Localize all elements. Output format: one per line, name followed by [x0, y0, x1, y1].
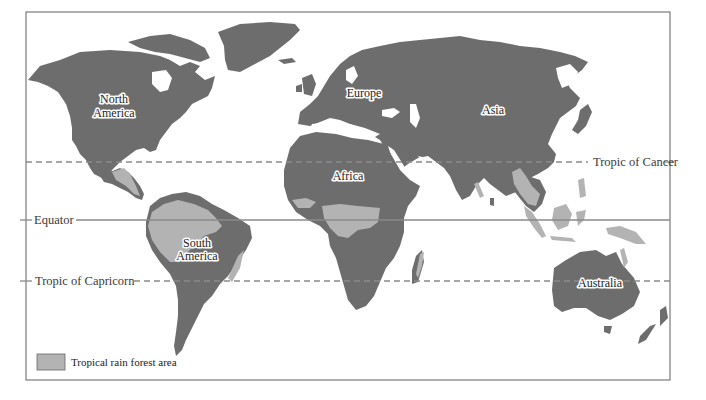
java-landmass	[550, 236, 576, 242]
greenland-landmass	[218, 22, 300, 72]
japan-landmass	[572, 104, 592, 134]
ireland-landmass	[296, 84, 302, 92]
borneo-landmass	[552, 204, 572, 230]
india-west-forest	[474, 182, 484, 198]
south-america-label-line2: America	[176, 249, 218, 263]
legend: Tropical rain forest area	[37, 354, 177, 370]
sulawesi-landmass	[576, 210, 586, 226]
new-guinea-landmass	[606, 226, 646, 244]
landmasses	[28, 22, 668, 356]
legend-swatch	[37, 354, 65, 370]
persian-gulf	[418, 156, 430, 164]
world-map: Tropic of Cancer Equator Tropic of Capri…	[0, 0, 706, 400]
sri-lanka-landmass	[490, 198, 494, 206]
british-isles-landmass	[302, 74, 316, 96]
asia-label: Asia	[482, 103, 505, 117]
philippines-landmass	[578, 178, 586, 198]
africa-label: Africa	[333, 169, 364, 183]
europe-label: Europe	[347, 86, 382, 100]
north-america-label: North	[100, 92, 128, 106]
new-zealand-landmass	[638, 306, 668, 344]
tasmania-landmass	[604, 326, 612, 334]
legend-label: Tropical rain forest area	[71, 356, 177, 368]
north-america-label-line2: America	[93, 106, 135, 120]
tropic-of-cancer-label: Tropic of Cancer	[593, 155, 679, 169]
tropic-of-capricorn-label: Tropic of Capricorn	[35, 274, 135, 288]
australia-label: Australia	[578, 276, 623, 290]
equator-label: Equator	[34, 213, 74, 227]
iceland-landmass	[278, 58, 296, 64]
south-america-label: South	[183, 236, 211, 250]
